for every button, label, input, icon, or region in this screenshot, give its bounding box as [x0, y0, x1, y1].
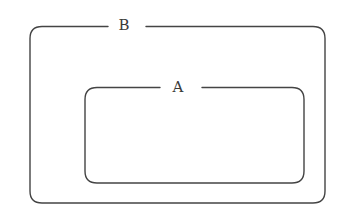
set-a-label: A — [168, 80, 188, 95]
set-b-label: B — [114, 18, 134, 33]
set-diagram-canvas — [0, 0, 348, 221]
set-b-boundary — [30, 27, 325, 204]
set-a-boundary — [85, 88, 304, 184]
